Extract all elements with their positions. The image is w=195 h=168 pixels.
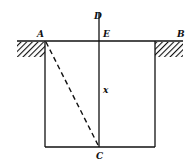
label-a: A [36, 29, 44, 39]
label-x: x [102, 85, 109, 95]
label-b: B [176, 29, 185, 39]
label-e: E [102, 29, 110, 39]
diagram-canvas: A E B D x C [0, 0, 195, 168]
dashed-line-ac [46, 42, 98, 145]
label-c: C [96, 151, 104, 161]
ground-hatch-right [155, 42, 183, 57]
label-d: D [93, 11, 102, 21]
ground-hatch-left [17, 42, 45, 57]
